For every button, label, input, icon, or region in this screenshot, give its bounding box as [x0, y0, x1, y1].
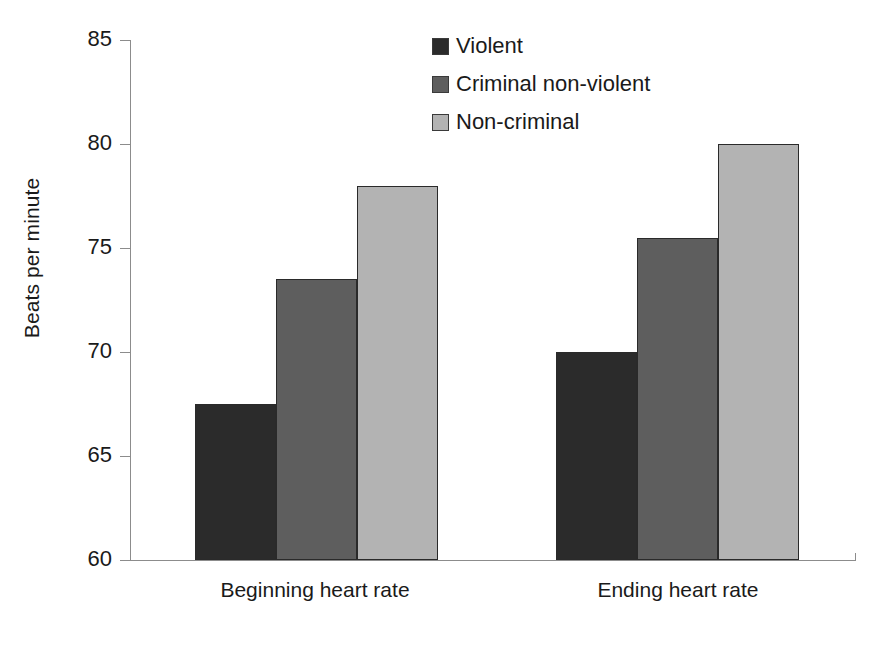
legend-swatch-violent [432, 38, 449, 55]
legend-item-criminal-non-violent: Criminal non-violent [432, 65, 650, 103]
y-tick-label-60: 60 [50, 548, 112, 570]
legend-label-non-criminal: Non-criminal [456, 111, 579, 133]
y-tick-label-70: 70 [50, 340, 112, 362]
bar-chart: Beats per minute 60 65 70 75 80 85 Begin… [0, 0, 885, 645]
y-tick-label-80: 80 [50, 132, 112, 154]
y-tick-60 [120, 560, 130, 561]
y-tick-65 [120, 456, 130, 457]
y-tick-85 [120, 40, 130, 41]
legend-item-violent: Violent [432, 27, 650, 65]
y-tick-label-85: 85 [50, 28, 112, 50]
bar-beginning-non-criminal [357, 186, 438, 560]
legend-swatch-non-criminal [432, 114, 449, 131]
legend: Violent Criminal non-violent Non-crimina… [432, 27, 650, 141]
bar-ending-violent [556, 352, 637, 560]
x-category-label-beginning: Beginning heart rate [195, 578, 435, 602]
legend-label-criminal-non-violent: Criminal non-violent [456, 73, 650, 95]
y-tick-75 [120, 248, 130, 249]
bar-ending-criminal-non-violent [637, 238, 718, 560]
legend-swatch-criminal-non-violent [432, 76, 449, 93]
bar-ending-non-criminal [718, 144, 799, 560]
y-axis-line [130, 40, 131, 561]
bar-beginning-violent [195, 404, 276, 560]
y-tick-label-65: 65 [50, 444, 112, 466]
y-tick-80 [120, 144, 130, 145]
y-tick-label-75: 75 [50, 236, 112, 258]
x-category-label-ending: Ending heart rate [556, 578, 800, 602]
y-tick-70 [120, 352, 130, 353]
legend-item-non-criminal: Non-criminal [432, 103, 650, 141]
x-axis-line [130, 560, 856, 561]
y-axis-title: Beats per minute [20, 108, 44, 408]
bar-beginning-criminal-non-violent [276, 279, 357, 560]
x-axis-end-tick [855, 553, 856, 561]
legend-label-violent: Violent [456, 35, 523, 57]
